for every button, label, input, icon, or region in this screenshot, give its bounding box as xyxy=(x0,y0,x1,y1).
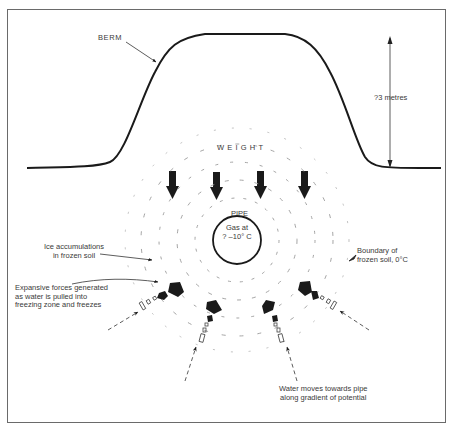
weight-arrow-icon xyxy=(298,171,311,199)
water-flow-cluster-right xyxy=(298,281,369,330)
berm-pointer-arrow xyxy=(126,42,156,62)
boundary-pointer-icon xyxy=(349,255,356,261)
ice-accumulations-label: Ice accumulations in frozen soil xyxy=(44,243,104,260)
ice-pointer-arrow xyxy=(100,254,152,260)
expansive-forces-label: Expansive forces generated as water is p… xyxy=(15,284,108,310)
boundary-label: Boundary of frozen soil, 0°C xyxy=(357,247,408,264)
water-label-line2: along gradient of potential xyxy=(279,394,368,403)
boundary-label-line2: frozen soil, 0°C xyxy=(357,256,408,265)
ice-label-line2: in frozen soil xyxy=(44,252,104,261)
gas-label-line2: ? –10° C xyxy=(214,233,260,242)
expansive-label-line3: freezing zone and freezes xyxy=(15,301,108,310)
weight-arrow-icon xyxy=(210,172,223,200)
gas-temperature-label: Gas at ? –10° C xyxy=(214,224,260,241)
pipe-label: PIPE xyxy=(231,210,248,219)
height-label: ?3 metres xyxy=(374,94,407,103)
water-flow-cluster-center-right xyxy=(262,300,297,381)
weight-arrow-icon xyxy=(166,171,179,199)
water-flow-cluster-center-left xyxy=(185,300,222,381)
berm-label: BERM xyxy=(98,34,122,43)
water-flow-cluster-left xyxy=(108,282,184,330)
water-movement-label: Water moves towards pipe along gradient … xyxy=(279,385,368,402)
weight-arrow-icon xyxy=(254,171,267,199)
frost-heave-diagram xyxy=(0,0,453,431)
weight-label: WEIGHT xyxy=(217,144,266,153)
weight-arrows xyxy=(166,171,311,200)
